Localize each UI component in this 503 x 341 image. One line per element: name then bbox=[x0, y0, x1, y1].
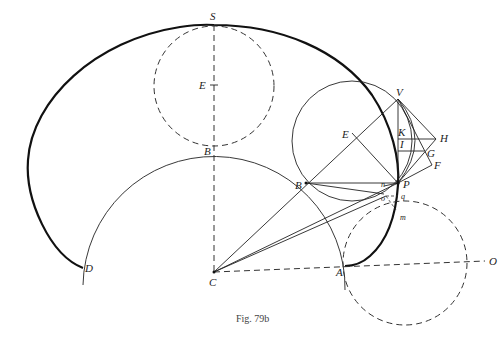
line-b-o bbox=[306, 183, 384, 194]
label-c: C bbox=[209, 276, 217, 288]
label-q: q bbox=[401, 192, 405, 201]
epicycloid-diagram: S E B E B V K H I G F P n q o m C A D O … bbox=[0, 0, 503, 341]
point-p bbox=[396, 181, 400, 185]
point-c bbox=[213, 271, 216, 274]
point-b bbox=[305, 182, 308, 185]
label-o-big: O bbox=[489, 255, 497, 267]
label-m: m bbox=[400, 213, 406, 222]
label-e-rolling: E bbox=[341, 128, 349, 140]
line-ep bbox=[352, 133, 398, 183]
label-o: o bbox=[381, 194, 385, 203]
label-n: n bbox=[381, 180, 385, 189]
label-i: I bbox=[399, 138, 405, 150]
label-b-contact: B bbox=[295, 179, 302, 191]
label-d: D bbox=[84, 262, 93, 274]
figure-caption: Fig. 79b bbox=[236, 313, 269, 324]
line-cv bbox=[214, 99, 398, 272]
label-s: S bbox=[210, 10, 216, 22]
line-cao bbox=[214, 261, 485, 272]
label-p: P bbox=[402, 178, 410, 190]
label-h: H bbox=[439, 132, 449, 144]
label-g: G bbox=[427, 147, 435, 159]
label-f: F bbox=[433, 159, 441, 171]
label-k: K bbox=[397, 126, 406, 138]
label-a: A bbox=[335, 266, 343, 278]
label-e-top: E bbox=[198, 79, 206, 91]
label-v: V bbox=[396, 86, 404, 98]
line-cp bbox=[214, 183, 398, 272]
line-c-o bbox=[214, 196, 386, 272]
label-b-top: B bbox=[204, 145, 211, 157]
